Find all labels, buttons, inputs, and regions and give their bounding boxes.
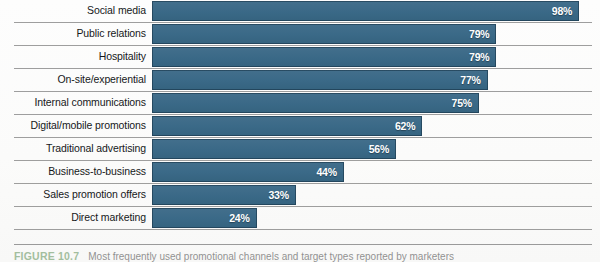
figure-number: FIGURE 10.7: [14, 250, 79, 262]
bar-category-label: Hospitality: [0, 46, 146, 69]
bar-track: 24%: [152, 208, 588, 228]
bar: 77%: [152, 70, 488, 90]
bar-category-label: Direct marketing: [0, 207, 146, 230]
bar-category-label: Social media: [0, 0, 146, 23]
bar-row: Internal communications75%: [0, 92, 600, 115]
bar-track: 75%: [152, 93, 588, 113]
bar-category-label: Traditional advertising: [0, 138, 146, 161]
bar-category-label: Public relations: [0, 23, 146, 46]
bar-row: On-site/experiential77%: [0, 69, 600, 92]
bar-row: Business-to-business44%: [0, 161, 600, 184]
bar: 98%: [152, 1, 579, 21]
bar-category-label: Sales promotion offers: [0, 184, 146, 207]
bar: 24%: [152, 208, 257, 228]
bar-row: Public relations79%: [0, 23, 600, 46]
bar-category-label: Internal communications: [0, 92, 146, 115]
bar-track: 77%: [152, 70, 588, 90]
figure-container: Social media98%Public relations79%Hospit…: [0, 0, 600, 262]
bar: 79%: [152, 24, 496, 44]
bar-row: Digital/mobile promotions62%: [0, 115, 600, 138]
bar-category-label: On-site/experiential: [0, 69, 146, 92]
bar-track: 79%: [152, 24, 588, 44]
bar-value-label: 79%: [469, 51, 496, 63]
bar-track: 62%: [152, 116, 588, 136]
bar-chart: Social media98%Public relations79%Hospit…: [0, 0, 600, 243]
bar-track: 33%: [152, 185, 588, 205]
bar-value-label: 33%: [268, 189, 295, 201]
bar-row: Traditional advertising56%: [0, 138, 600, 161]
bar: 62%: [152, 116, 422, 136]
bar: 44%: [152, 162, 344, 182]
bar-track: 98%: [152, 1, 588, 21]
bar: 56%: [152, 139, 396, 159]
bar: 75%: [152, 93, 479, 113]
bar-track: 79%: [152, 47, 588, 67]
bar-track: 56%: [152, 139, 588, 159]
bar-value-label: 44%: [316, 166, 343, 178]
bar-category-label: Digital/mobile promotions: [0, 115, 146, 138]
bar-value-label: 75%: [452, 97, 479, 109]
bar-value-label: 56%: [369, 143, 396, 155]
bar-value-label: 62%: [395, 120, 422, 132]
bar-value-label: 77%: [460, 74, 487, 86]
bar-track: 44%: [152, 162, 588, 182]
caption-divider: [14, 244, 592, 245]
figure-caption-text: Most frequently used promotional channel…: [88, 251, 454, 262]
bar-value-label: 98%: [552, 5, 579, 17]
bar-row: Social media98%: [0, 0, 600, 23]
bar: 33%: [152, 185, 296, 205]
bar-category-label: Business-to-business: [0, 161, 146, 184]
bar-value-label: 24%: [229, 212, 256, 224]
bar-value-label: 79%: [469, 28, 496, 40]
bar-row: Sales promotion offers33%: [0, 184, 600, 207]
bar-row: Direct marketing24%: [0, 207, 600, 230]
bar: 79%: [152, 47, 496, 67]
figure-caption: FIGURE 10.7Most frequently used promotio…: [14, 250, 594, 262]
bar-row: Hospitality79%: [0, 46, 600, 69]
